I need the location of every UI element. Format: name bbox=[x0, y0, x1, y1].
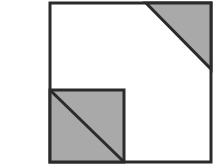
geometric-figure bbox=[0, 0, 221, 168]
